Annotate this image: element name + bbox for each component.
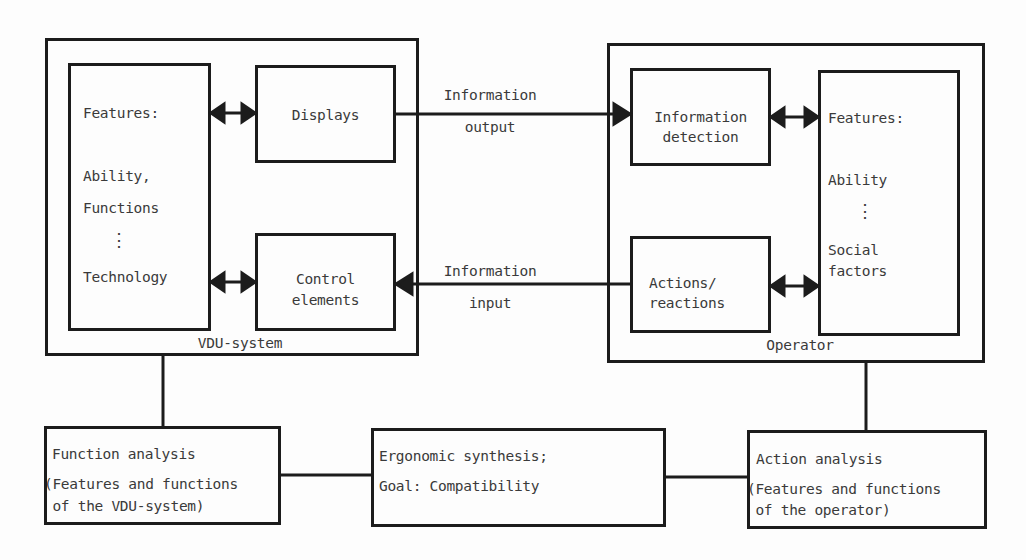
function-analysis-desc-1: (Features and functions bbox=[44, 475, 238, 493]
actions-reactions-label-2: reactions bbox=[649, 294, 725, 312]
information-detection-label-1: Information bbox=[630, 108, 771, 126]
information-output-label-1: Information bbox=[430, 86, 550, 104]
operator-label: Operator bbox=[730, 336, 870, 354]
operator-feature-ability: Ability bbox=[828, 171, 887, 189]
ergonomic-synthesis-title: Ergonomic synthesis; bbox=[379, 447, 548, 465]
ergonomic-synthesis-goal: Goal: Compatibility bbox=[379, 477, 539, 495]
vdu-feature-functions: Functions bbox=[83, 199, 159, 217]
control-elements-label-1: Control bbox=[255, 270, 396, 288]
function-analysis-title: Function analysis bbox=[52, 445, 195, 463]
operator-feature-factors: factors bbox=[828, 262, 887, 280]
function-analysis-desc-2: of the VDU-system) bbox=[44, 497, 204, 515]
operator-feature-social: Social bbox=[828, 241, 879, 259]
information-input-label-2: input bbox=[430, 294, 550, 312]
action-analysis-desc-2: of the operator) bbox=[747, 501, 890, 519]
information-output-label-2: output bbox=[430, 118, 550, 136]
vdu-features-heading: Features: bbox=[83, 104, 159, 122]
action-analysis-desc-1: (Features and functions bbox=[747, 480, 941, 498]
actions-reactions-label-1: Actions/ bbox=[649, 274, 716, 292]
control-elements-label-2: elements bbox=[255, 291, 396, 309]
vdu-feature-ellipsis: ⋮ bbox=[110, 229, 128, 251]
vdu-system-label: VDU-system bbox=[170, 334, 310, 352]
operator-feature-ellipsis: ⋮ bbox=[856, 200, 874, 222]
action-analysis-title: Action analysis bbox=[756, 450, 882, 468]
vdu-feature-ability: Ability, bbox=[83, 167, 150, 185]
vdu-feature-technology: Technology bbox=[83, 268, 167, 286]
information-detection-label-2: detection bbox=[630, 128, 771, 146]
information-input-label-1: Information bbox=[430, 262, 550, 280]
operator-features-heading: Features: bbox=[828, 109, 904, 127]
displays-label: Displays bbox=[255, 106, 396, 124]
